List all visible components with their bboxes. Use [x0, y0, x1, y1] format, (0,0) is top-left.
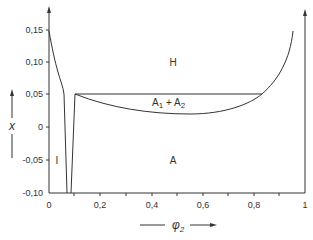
x-tick-1: 1: [302, 200, 307, 210]
y-tick-0.05: 0,05: [25, 89, 43, 99]
y-tick-0.15: 0,15: [25, 25, 43, 35]
region-label-A1A2: A1 + A2: [152, 97, 186, 110]
region-label-H: H: [169, 57, 176, 68]
right-axis-arrow-icon: [303, 9, 307, 16]
y-axis-title: x: [8, 119, 16, 133]
x-tick-0.4: 0,4: [146, 200, 159, 210]
left-boundary-curve: [49, 31, 64, 94]
y-label-arrow-icon: [10, 89, 14, 96]
left-drop-line: [64, 94, 67, 193]
phase-diagram: 0,15 0,10 0,05 0 -0,05 -0,10 0 0,2 0,4 0…: [0, 0, 313, 240]
y-tick-0.10: 0,10: [25, 57, 43, 67]
x-tick-0.8: 0,8: [248, 200, 261, 210]
region-label-A: A: [170, 155, 177, 166]
y-axis-arrow-icon: [47, 6, 51, 13]
y-tick-0: 0: [38, 122, 43, 132]
y-tick-labels: 0,15 0,10 0,05 0 -0,05 -0,10: [22, 25, 43, 198]
x-tick-labels: 0 0,2 0,4 0,6 0,8 1: [46, 200, 307, 210]
x-tick-0.6: 0,6: [197, 200, 210, 210]
x-tick-0: 0: [46, 200, 51, 210]
region-label-I: I: [56, 155, 59, 166]
y-tick-neg0.10: -0,10: [22, 188, 43, 198]
phase-boundaries: [49, 31, 293, 193]
x-tick-0.2: 0,2: [94, 200, 107, 210]
y-tick-neg0.05: -0,05: [22, 155, 43, 165]
rise-line: [71, 94, 75, 193]
x-axis-title: φ2: [172, 218, 185, 234]
x-label-arrow-icon: [210, 223, 217, 227]
